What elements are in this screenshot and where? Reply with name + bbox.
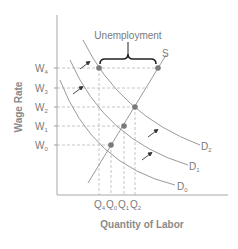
q1-label: Q1: [118, 199, 130, 211]
point-w0-q0: [108, 142, 114, 148]
demand-labels: D2 D1 D0: [177, 141, 212, 193]
q0-label: Q0: [106, 199, 118, 211]
supply-curve: [88, 55, 166, 183]
wage-labels: W4 W3 W2 W1 W0: [35, 63, 48, 152]
quantity-guide-lines: [99, 68, 135, 195]
q4-label: Q4: [94, 199, 106, 211]
q2-label: Q2: [130, 199, 142, 211]
unemployment-brace: [100, 54, 156, 64]
w1-label: W1: [35, 121, 48, 133]
point-w4-supply: [155, 65, 161, 71]
y-axis-title: Wage Rate: [13, 81, 24, 132]
unemployment-label: Unemployment: [94, 30, 161, 41]
w4-label: W4: [35, 63, 48, 75]
point-w1-q1: [121, 123, 127, 129]
labor-market-diagram: Unemployment S W4 W3 W2 W1 W0 Q4 Q0 Q1 Q…: [0, 0, 238, 249]
d2-label: D2: [201, 141, 212, 153]
w3-label: W3: [35, 83, 48, 95]
x-axis-title: Quantity of Labor: [100, 219, 183, 230]
point-w4-q4: [96, 65, 102, 71]
d0-label: D0: [177, 181, 188, 193]
d1-label: D1: [189, 161, 200, 173]
supply-label: S: [162, 48, 169, 59]
shift-arrows: [73, 62, 158, 161]
demand-curves: [60, 40, 200, 185]
demand-curve-d2: [83, 40, 200, 145]
w2-label: W2: [35, 102, 48, 114]
demand-curve-d1: [70, 60, 188, 165]
w0-label: W0: [35, 140, 48, 152]
quantity-labels: Q4 Q0 Q1 Q2: [94, 199, 142, 211]
axes: [57, 15, 228, 195]
point-w2-q2: [132, 104, 138, 110]
demand-curve-d0: [60, 80, 175, 185]
